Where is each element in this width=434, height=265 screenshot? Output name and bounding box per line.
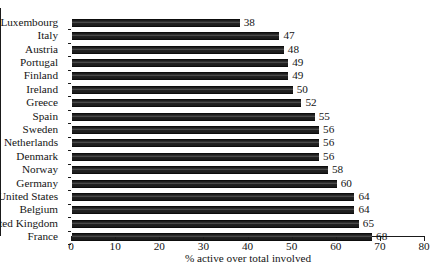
bar-row: Portugal49 xyxy=(71,56,424,69)
x-axis-tick-label: 10 xyxy=(110,241,121,252)
bar-value-label: 64 xyxy=(358,205,369,216)
bar-value-label: 65 xyxy=(363,218,374,229)
bar xyxy=(72,166,328,174)
plot-area: Luxembourg38Italy47Austria48Portugal49Fi… xyxy=(71,8,424,236)
bar-row: Austria48 xyxy=(71,43,424,56)
bar-row: Germany60 xyxy=(71,177,424,190)
bar-row: Italy47 xyxy=(71,29,424,42)
bar-row: Spain55 xyxy=(71,110,424,123)
bar-value-label: 49 xyxy=(292,71,303,82)
bar xyxy=(72,180,337,188)
category-label: Spain xyxy=(33,111,58,122)
x-axis-tick-label: 70 xyxy=(374,241,385,252)
category-label: France xyxy=(28,232,58,243)
x-axis-tick-label: 50 xyxy=(286,241,297,252)
bar xyxy=(72,113,315,121)
bar xyxy=(72,153,319,161)
bar xyxy=(72,99,301,107)
x-axis-tick-label: 40 xyxy=(242,241,253,252)
bar-row: Greece52 xyxy=(71,96,424,109)
bar xyxy=(72,59,288,67)
bar-row: Norway58 xyxy=(71,164,424,177)
bar-row: Netherlands56 xyxy=(71,137,424,150)
bar-value-label: 48 xyxy=(288,44,299,55)
bar-value-label: 60 xyxy=(341,178,352,189)
bar xyxy=(72,139,319,147)
category-label: Finland xyxy=(24,71,58,82)
bar-row: United States64 xyxy=(71,190,424,203)
bar xyxy=(72,72,288,80)
category-label: Netherlands xyxy=(4,138,58,149)
category-label: Ireland xyxy=(26,84,58,95)
bar xyxy=(72,19,240,27)
bar-row: Finland49 xyxy=(71,70,424,83)
bar-value-label: 50 xyxy=(297,84,308,95)
x-axis-tick-label: 0 xyxy=(68,241,74,252)
category-label: United Kingdom xyxy=(0,218,58,229)
bar xyxy=(72,32,279,40)
category-label: Belgium xyxy=(19,205,58,216)
category-label: Luxembourg xyxy=(0,17,58,28)
chart-title-clipped xyxy=(6,0,426,3)
category-label: Greece xyxy=(26,98,58,109)
x-axis-tick-label: 30 xyxy=(198,241,209,252)
bar-value-label: 55 xyxy=(319,111,330,122)
bar-value-label: 56 xyxy=(323,138,334,149)
bar-row: Denmark56 xyxy=(71,150,424,163)
bar xyxy=(72,220,359,228)
x-axis-tick-label: 60 xyxy=(330,241,341,252)
bar-row: United Kingdom65 xyxy=(71,217,424,230)
category-label: Germany xyxy=(16,178,58,189)
bar-value-label: 38 xyxy=(244,17,255,28)
bar-row: Belgium64 xyxy=(71,204,424,217)
bar xyxy=(72,126,319,134)
category-label: Denmark xyxy=(16,151,58,162)
category-label: United States xyxy=(0,191,58,202)
bar-value-label: 52 xyxy=(305,98,316,109)
bar-value-label: 49 xyxy=(292,57,303,68)
x-axis-tick-label: 20 xyxy=(154,241,165,252)
bar-chart: Luxembourg38Italy47Austria48Portugal49Fi… xyxy=(0,0,434,265)
bar-value-label: 47 xyxy=(283,31,294,42)
bar-row: Ireland50 xyxy=(71,83,424,96)
bar-row: Sweden56 xyxy=(71,123,424,136)
category-label: Norway xyxy=(22,165,58,176)
bar xyxy=(72,206,354,214)
bar-row: Luxembourg38 xyxy=(71,16,424,29)
x-axis-title: % active over total involved xyxy=(71,253,425,264)
x-axis-tick-label: 80 xyxy=(418,241,429,252)
bar-value-label: 56 xyxy=(323,151,334,162)
bar xyxy=(72,46,284,54)
category-label: Sweden xyxy=(23,124,58,135)
category-label: Austria xyxy=(25,44,58,55)
bar-value-label: 56 xyxy=(323,124,334,135)
category-label: Italy xyxy=(37,31,58,42)
bar-value-label: 64 xyxy=(358,191,369,202)
bar xyxy=(72,86,293,94)
bar-value-label: 58 xyxy=(332,165,343,176)
category-label: Portugal xyxy=(20,57,58,68)
bar xyxy=(72,193,354,201)
